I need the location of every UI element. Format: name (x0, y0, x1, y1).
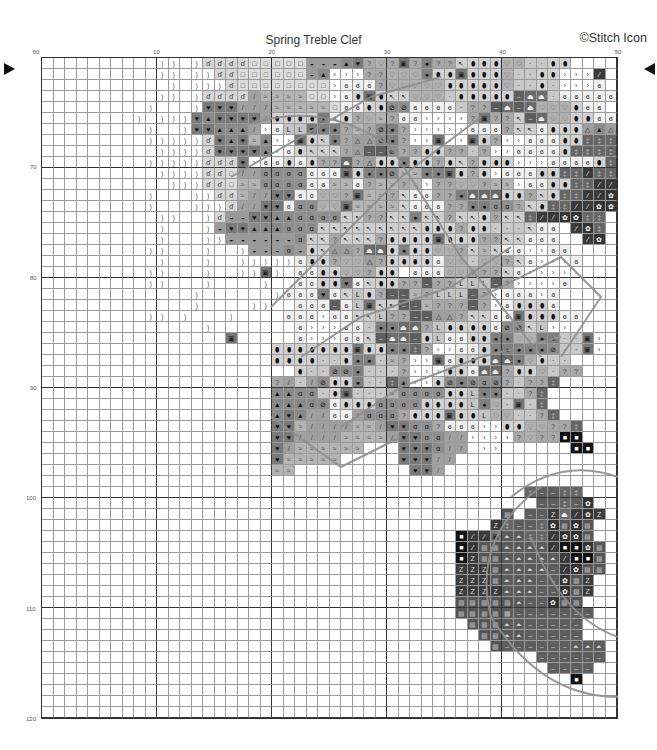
stitch-cell-open-heart: ♡ (514, 58, 526, 69)
stitch-cell-empty (376, 465, 388, 476)
stitch-cell-empty (330, 685, 342, 696)
stitch-cell-empty (146, 69, 158, 80)
stitch-cell-empty (238, 498, 250, 509)
stitch-cell-swirl: ɞ (295, 322, 307, 333)
stitch-cell-empty (399, 267, 411, 278)
stitch-cell-paren: ) (169, 146, 181, 157)
stitch-cell-empty (100, 454, 112, 465)
stitch-cell-empty (88, 652, 100, 663)
stitch-cell-empty (226, 267, 238, 278)
row-label: 100 (26, 495, 36, 501)
stitch-cell-empty (77, 707, 89, 718)
stitch-cell-swirl: ɞ (410, 201, 422, 212)
stitch-cell-swirl: ɞ (514, 289, 526, 300)
stitch-cell-slash-circle: ⊘ (387, 146, 399, 157)
stitch-cell-small-dot: · (571, 333, 583, 344)
stitch-cell-cup: ⏏ (364, 245, 376, 256)
stitch-cell-pill: ⁄ (594, 190, 606, 201)
stitch-cell-empty (192, 223, 204, 234)
stitch-cell-empty (42, 366, 54, 377)
stitch-cell-swirl: ɞ (422, 190, 434, 201)
stitch-cell-empty (180, 223, 192, 234)
stitch-cell-empty (54, 212, 66, 223)
stitch-cell-swirl: ɞ (318, 168, 330, 179)
stitch-cell-paren: ) (180, 146, 192, 157)
stitch-cell-empty (284, 630, 296, 641)
column-label: 20 (268, 49, 275, 55)
stitch-cell-pill: ⁄ (571, 201, 583, 212)
stitch-cell-flower: ✿ (583, 509, 595, 520)
stitch-cell-empty (341, 498, 353, 509)
stitch-cell-empty (445, 685, 457, 696)
stitch-cell-empty (111, 223, 123, 234)
stitch-cell-empty (261, 454, 273, 465)
stitch-cell-open-heart: ♡ (422, 91, 434, 102)
stitch-cell-empty (111, 135, 123, 146)
stitch-cell-heart: ♥ (249, 212, 261, 223)
stitch-cell-empty (42, 377, 54, 388)
stitch-cell-empty (203, 399, 215, 410)
stitch-cell-empty (123, 267, 135, 278)
stitch-cell-empty (318, 652, 330, 663)
stitch-cell-empty (42, 410, 54, 421)
stitch-cell-swirl: ɞ (571, 157, 583, 168)
stitch-cell-swirl: ɞ (330, 113, 342, 124)
stitch-cell-empty (169, 487, 181, 498)
stitch-cell-bowl: ◒ (284, 234, 296, 245)
stitch-cell-checker: ▩ (583, 564, 595, 575)
stitch-cell-dot: ● (491, 344, 503, 355)
stitch-cell-empty (594, 685, 606, 696)
stitch-cell-bean: ⬮ (560, 135, 572, 146)
stitch-cell-empty (445, 531, 457, 542)
stitch-cell-empty (180, 102, 192, 113)
stitch-cell-empty (54, 520, 66, 531)
stitch-cell-small-dot: · (376, 355, 388, 366)
stitch-cell-empty (272, 509, 284, 520)
stitch-cell-empty (583, 465, 595, 476)
stitch-cell-empty (88, 135, 100, 146)
stitch-cell-wave: ≈ (295, 454, 307, 465)
stitch-cell-swirl: ɞ (307, 311, 319, 322)
stitch-cell-dash: – (537, 575, 549, 586)
stitch-cell-empty (111, 69, 123, 80)
stitch-cell-empty (583, 256, 595, 267)
stitch-cell-small-dot: · (502, 399, 514, 410)
stitch-cell-empty (307, 608, 319, 619)
stitch-cell-bean: ⬮ (456, 355, 468, 366)
stitch-cell-empty (318, 498, 330, 509)
stitch-cell-empty (295, 586, 307, 597)
stitch-cell-empty (146, 509, 158, 520)
stitch-cell-empty (502, 487, 514, 498)
stitch-cell-empty (146, 476, 158, 487)
stitch-cell-empty (387, 542, 399, 553)
stitch-cell-empty (134, 333, 146, 344)
stitch-cell-empty (261, 509, 273, 520)
stitch-cell-swirl: ɞ (307, 179, 319, 190)
stitch-cell-slash: / (307, 421, 319, 432)
stitch-cell-key: ↖ (399, 212, 411, 223)
stitch-cell-heart: ♥ (261, 212, 273, 223)
stitch-cell-swirl: ɞ (571, 91, 583, 102)
stitch-cell-empty (433, 564, 445, 575)
stitch-cell-swirl: ɞ (341, 300, 353, 311)
stitch-cell-empty (445, 586, 457, 597)
stitch-cell-chevron: › (479, 421, 491, 432)
stitch-cell-question: ? (468, 157, 480, 168)
stitch-cell-empty (215, 311, 227, 322)
stitch-cell-chevron: › (525, 245, 537, 256)
stitch-cell-empty (88, 465, 100, 476)
stitch-cell-dot: ● (399, 344, 411, 355)
stitch-cell-empty (134, 289, 146, 300)
stitch-cell-dash: – (548, 641, 560, 652)
stitch-cell-empty (583, 707, 595, 718)
stitch-cell-empty (364, 564, 376, 575)
stitch-cell-wave: ≈ (284, 465, 296, 476)
stitch-cell-flower: ✿ (583, 498, 595, 509)
stitch-cell-bean: ⬮ (571, 124, 583, 135)
stitch-cell-small-dot: · (376, 377, 388, 388)
stitch-cell-empty (203, 553, 215, 564)
stitch-cell-empty (387, 454, 399, 465)
stitch-cell-empty (583, 289, 595, 300)
stitch-cell-empty (77, 597, 89, 608)
stitch-cell-empty (169, 443, 181, 454)
